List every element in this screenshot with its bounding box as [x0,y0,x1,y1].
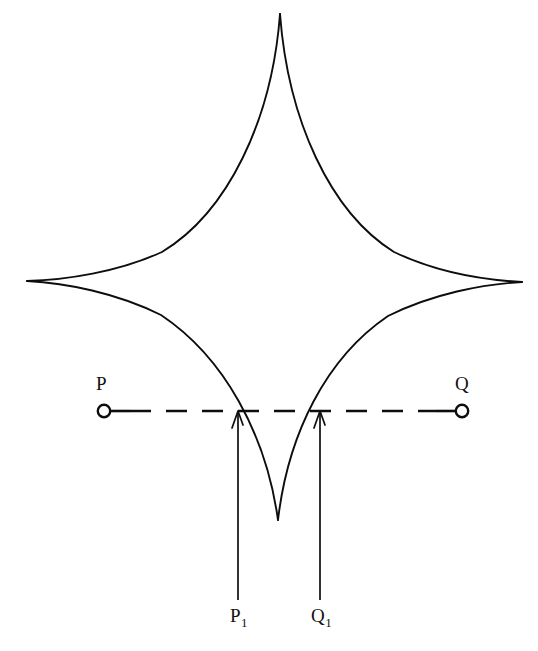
label-q1: Q1 [311,606,332,629]
diagram-svg [0,0,538,651]
label-q1-base: Q [311,605,325,626]
astroid-arc-top-left [27,14,280,281]
label-q: Q [455,374,469,393]
chord-group [98,405,468,417]
label-q1-subscript: 1 [325,615,332,630]
endpoint-marker-q [456,405,468,417]
label-p: P [96,374,107,393]
label-p1-base: P [230,605,241,626]
pointer-group [232,411,325,600]
label-p-text: P [96,373,107,394]
label-p1-subscript: 1 [241,615,248,630]
endpoint-marker-p [98,405,110,417]
label-q-text: Q [455,373,469,394]
astroid-arc-bottom-left [27,281,278,520]
figure-canvas: P Q P1 Q1 [0,0,538,651]
label-p1: P1 [230,606,248,629]
astroid-arc-top-right [280,14,522,282]
astroid-arc-bottom-right [278,282,522,520]
astroid-curve-group [27,14,522,520]
